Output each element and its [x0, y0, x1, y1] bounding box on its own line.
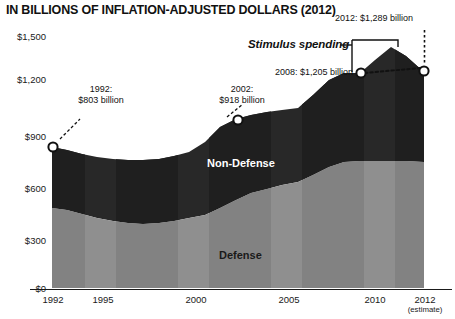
- marker-1992: [48, 142, 57, 151]
- marker-2002: [233, 115, 242, 124]
- annotation-2002-line2: $918 billion: [196, 95, 288, 106]
- annotation-2008: 2008: $1,205 billion: [238, 67, 353, 78]
- annotation-2012: 2012: $1,289 billion: [335, 13, 413, 24]
- annotation-1992-line1: 1992:: [55, 84, 147, 95]
- series-label-non-defense: Non-Defense: [207, 157, 275, 169]
- annotation-1992-line2: $803 billion: [55, 95, 147, 106]
- marker-2012: [419, 66, 428, 75]
- marker-2008: [356, 68, 365, 77]
- stimulus-bracket-top: [352, 40, 398, 47]
- annotation-2002: 2002: $918 billion: [196, 84, 288, 106]
- annotation-2002-line1: 2002:: [196, 84, 288, 95]
- annotation-1992: 1992: $803 billion: [55, 84, 147, 106]
- stimulus-spending-label: Stimulus spending: [248, 38, 349, 50]
- leader-line-1992: [60, 119, 80, 139]
- series-label-defense: Defense: [219, 249, 262, 261]
- chart-container: IN BILLIONS OF INFLATION-ADJUSTED DOLLAR…: [0, 0, 455, 319]
